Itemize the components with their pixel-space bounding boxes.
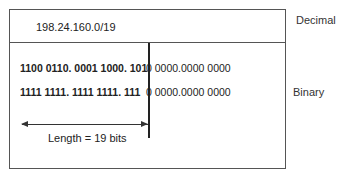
- decimal-label: Decimal: [296, 14, 336, 26]
- mask-binary-prefix: 1111 1111. 1111 1111. 111: [20, 86, 140, 98]
- decimal-address: 198.24.160.0/19: [36, 21, 116, 33]
- length-arrow: [22, 124, 148, 125]
- binary-label: Binary: [293, 86, 324, 98]
- arrow-left-icon: [21, 121, 28, 127]
- address-binary-host: 0 0000.0000 0000: [146, 62, 231, 74]
- address-binary-prefix: 1100 0110. 0001 1000. 101: [20, 62, 147, 74]
- length-label: Length = 19 bits: [48, 132, 127, 144]
- mask-binary-host: 0 0000.0000 0000: [146, 86, 231, 98]
- arrow-right-icon: [141, 121, 148, 127]
